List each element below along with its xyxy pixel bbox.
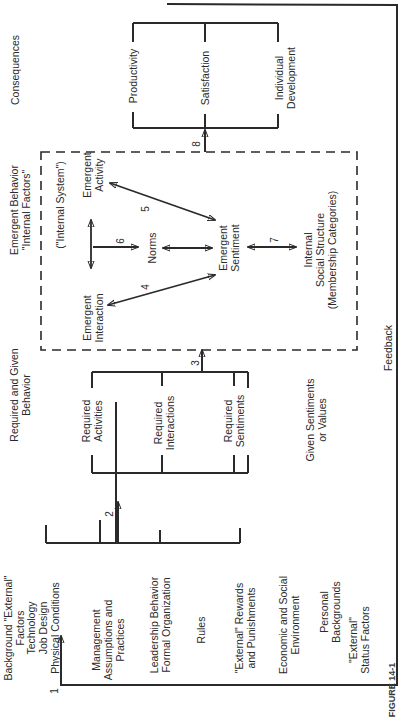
item-line: Formal Organization (160, 577, 172, 673)
heading-consequences: Consequences (9, 35, 21, 105)
heading-line: "Internal Factors" (20, 165, 32, 255)
background-item-rules: Rules (195, 617, 207, 644)
item-line: Assumptions and (102, 600, 114, 681)
item-line: Physical Conditions (49, 582, 61, 674)
item-line: Backgrounds (330, 581, 342, 642)
arrow-number-3: 3 (190, 360, 201, 366)
item-line: (Membership Categories) (326, 191, 338, 309)
arrow-number-1: 1 (49, 688, 60, 694)
figure-caption: FIGURE 14-1 (387, 663, 397, 717)
item-line: Economic and Social (277, 576, 289, 674)
arrow-number-8: 8 (191, 141, 202, 147)
item-line: Satisfaction (199, 51, 211, 105)
given-item-values: Given Sentiments or Values (304, 379, 328, 462)
node-emergent-sentiment: Emergent Sentiment (217, 224, 241, 271)
background-item-economic: Economic and Social Environment (277, 576, 301, 674)
background-item-leadership: Leadership Behavior Formal Organization (148, 577, 172, 673)
item-line: Development (285, 47, 297, 109)
item-line: Rules (195, 617, 207, 644)
item-line: Job Design (37, 582, 49, 674)
arrow-number-7: 7 (269, 237, 280, 243)
item-line: Activities (92, 400, 104, 443)
required-item-sentiments: Required Sentiments (222, 395, 246, 448)
item-line: Required (80, 400, 92, 443)
item-line: Interaction (93, 293, 105, 342)
item-line: Sentiment (229, 224, 241, 271)
required-item-interactions: Required Interactions (152, 396, 176, 450)
item-line: Norms (146, 233, 158, 264)
item-line: Sentiments (234, 395, 246, 448)
item-line: Productivity (127, 49, 139, 103)
heading-line: Behavior (20, 348, 32, 441)
item-line: ("Internal System") (54, 161, 66, 248)
heading-line: Background "External" (2, 576, 14, 681)
node-norms: Norms (146, 233, 158, 264)
item-line: Technology (25, 582, 37, 674)
item-line: Emergent (217, 224, 229, 271)
background-item-status: "External" Status Factors (347, 606, 371, 674)
item-line: Status Factors (359, 606, 371, 674)
node-emergent-interaction: Emergent Interaction (81, 293, 105, 342)
consequence-item-productivity: Productivity (127, 49, 139, 103)
arrow-number-2: 2 (104, 511, 115, 517)
item-line: Environment (289, 576, 301, 674)
item-line: Required (222, 395, 234, 448)
item-line: and Punishments (245, 583, 257, 673)
item-line: or Values (316, 379, 328, 462)
node-emergent-activity: Emergent Activity (81, 152, 105, 198)
background-item-personal: Personal Backgrounds (318, 581, 342, 642)
background-item-rewards: "External" Rewards and Punishments (233, 583, 257, 673)
heading-line: Emergent Behavior (8, 165, 20, 255)
arrow-number-6: 6 (115, 238, 126, 244)
item-line: Practices (114, 600, 126, 681)
consequence-item-satisfaction: Satisfaction (199, 51, 211, 105)
item-line: Required (152, 396, 164, 450)
item-line: Internal (302, 191, 314, 309)
background-item-technology: Technology Job Design Physical Condition… (25, 582, 61, 674)
item-line: Leadership Behavior (148, 577, 160, 673)
item-line: Emergent (81, 293, 93, 342)
item-line: Management (90, 600, 102, 681)
internal-system-label: ("Internal System") (54, 161, 66, 248)
heading-emergent-behavior: Emergent Behavior "Internal Factors" (8, 165, 32, 255)
arrow-number-5: 5 (140, 206, 151, 212)
item-line: Personal (318, 581, 330, 642)
item-line: Social Structure (314, 191, 326, 309)
feedback-label: Feedback (382, 325, 394, 371)
arrow-number-4: 4 (140, 284, 151, 290)
heading-line: Required and Given (8, 348, 20, 441)
item-line: Given Sentiments (304, 379, 316, 462)
item-line: Individual (273, 47, 285, 109)
consequence-item-individual-development: Individual Development (273, 47, 297, 109)
heading-line: Consequences (9, 35, 21, 105)
feedback-loop-line (61, 4, 397, 685)
heading-background-factors: Background "External" Factors (2, 576, 26, 681)
item-line: Interactions (164, 396, 176, 450)
item-line: Activity (93, 152, 105, 198)
node-internal-social-structure: Internal Social Structure (Membership Ca… (302, 191, 338, 309)
item-line: Emergent (81, 152, 93, 198)
heading-required-given-behavior: Required and Given Behavior (8, 348, 32, 441)
item-line: "External" Rewards (233, 583, 245, 673)
item-line: "External" (347, 606, 359, 674)
background-item-management: Management Assumptions and Practices (90, 600, 126, 681)
item-line: Feedback (382, 325, 394, 371)
required-item-activities: Required Activities (80, 400, 104, 443)
